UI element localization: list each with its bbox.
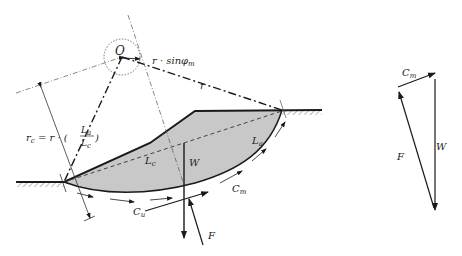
reaction-force-arrow: [189, 199, 203, 245]
radius-label: r: [200, 80, 206, 91]
cohesion-mobilized-label: Cm: [232, 183, 247, 196]
weight-label: W: [189, 157, 200, 168]
polygon-w-label: W: [436, 141, 447, 152]
ground-hatch-right: [282, 111, 322, 115]
polygon-f-label: F: [396, 151, 405, 162]
svg-text:Lc: Lc: [80, 138, 91, 150]
polygon-f-arrow: [399, 92, 434, 208]
cohesion-mobilized-arrow: [145, 192, 208, 211]
arc-arrow-1: [77, 193, 93, 197]
svg-text:): ): [94, 132, 99, 143]
rc-dimension-line: [41, 87, 90, 218]
rc-equation: rc = r · ( La Lc ): [26, 125, 99, 150]
arc-arrow-3: [150, 198, 172, 200]
r-sinphi-label: r · sinφm: [152, 55, 195, 68]
center-label: O: [115, 44, 125, 58]
reaction-label: F: [207, 230, 216, 241]
force-polygon: Cm W F: [396, 67, 447, 210]
polygon-cm-label: Cm: [402, 67, 417, 80]
arc-arrow-2: [110, 199, 134, 202]
slope-stability-diagram: O r · sinφm r rc = r · ( La Lc ) Lc La W…: [0, 0, 462, 256]
ground-hatch-left: [16, 183, 64, 187]
cohesion-unit-label: Cu: [133, 206, 146, 219]
construction-line-parallel: [16, 57, 122, 93]
